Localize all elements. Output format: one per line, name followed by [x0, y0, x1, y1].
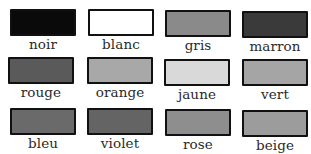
color-swatch	[88, 9, 154, 36]
color-card-orange: orange	[85, 57, 163, 106]
color-card-beige: beige	[240, 110, 311, 154]
color-card-rose: rose	[163, 109, 241, 154]
color-label: marron	[240, 40, 310, 54]
color-card-noir: noir	[8, 9, 86, 58]
color-swatch	[87, 108, 153, 135]
color-swatch	[8, 57, 74, 84]
color-swatch	[242, 110, 308, 137]
color-card-violet: violet	[85, 108, 163, 154]
color-card-jaune: jaune	[162, 59, 240, 108]
color-card-blanc: blanc	[86, 9, 164, 58]
color-label: noir	[8, 38, 78, 52]
color-label: rose	[163, 138, 233, 152]
color-swatch	[10, 108, 76, 135]
color-label: jaune	[162, 88, 232, 102]
color-card-gris: gris	[163, 10, 241, 59]
color-label: beige	[240, 139, 310, 153]
color-swatch	[165, 10, 231, 37]
color-card-marron: marron	[240, 11, 311, 60]
color-swatch	[10, 9, 76, 36]
color-swatch	[87, 57, 153, 84]
color-label: gris	[163, 39, 233, 53]
color-label: vert	[240, 88, 310, 102]
color-swatch	[165, 109, 231, 136]
color-card-vert: vert	[240, 59, 311, 108]
color-label: bleu	[8, 137, 78, 151]
color-card-bleu: bleu	[8, 108, 86, 154]
color-vocabulary-grid: noir blanc gris marron rouge orange jaun…	[0, 0, 311, 154]
color-card-rouge: rouge	[6, 57, 84, 106]
color-swatch	[242, 11, 308, 38]
color-swatch	[164, 59, 230, 86]
color-label: violet	[85, 137, 155, 151]
color-label: blanc	[86, 38, 156, 52]
color-swatch	[242, 59, 308, 86]
color-label: orange	[85, 86, 155, 100]
color-label: rouge	[6, 86, 76, 100]
